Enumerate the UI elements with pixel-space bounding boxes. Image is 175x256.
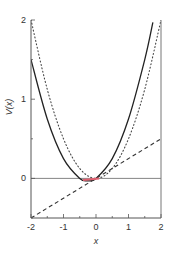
- y-axis-label: V(x): [4, 99, 14, 116]
- y-tick-label: 0: [21, 173, 26, 183]
- x-tick-label: -1: [59, 222, 67, 232]
- x-axis-label: x: [93, 236, 99, 246]
- x-tick-label: 2: [158, 222, 163, 232]
- series-dotted: [31, 20, 161, 178]
- x-tick-label: 1: [126, 222, 131, 232]
- plot-area: [31, 20, 161, 218]
- x-tick-label: 0: [93, 222, 98, 232]
- y-tick-label: 1: [21, 94, 26, 104]
- x-tick-label: -2: [27, 222, 35, 232]
- series-solid: [31, 22, 153, 181]
- y-tick-label: 2: [21, 15, 26, 25]
- chart: -2-1012012xV(x): [0, 0, 175, 256]
- axes: -2-1012012xV(x): [4, 15, 164, 246]
